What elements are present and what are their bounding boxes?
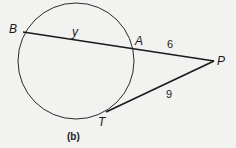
point-label-T: T bbox=[98, 115, 107, 129]
point-label-A: A bbox=[134, 34, 143, 48]
segment-label-AP: 6 bbox=[167, 38, 173, 50]
point-label-B: B bbox=[9, 22, 17, 36]
figure-caption: (b) bbox=[67, 131, 80, 142]
segment-label-y: y bbox=[71, 25, 79, 39]
circle bbox=[18, 3, 134, 119]
secant-tangent-diagram: B A P T y 6 9 (b) bbox=[0, 0, 236, 148]
segment-label-PT: 9 bbox=[166, 88, 172, 100]
point-label-P: P bbox=[217, 54, 225, 68]
tangent-segment-PT bbox=[106, 61, 214, 112]
secant-segment-BP bbox=[23, 32, 214, 61]
